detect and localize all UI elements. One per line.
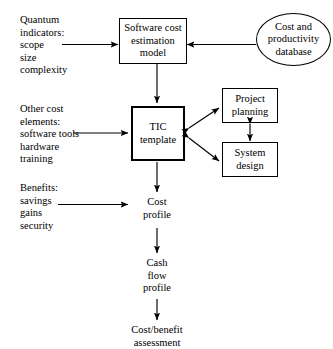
node-label-cost-and-productivity-database: Cost and productivity database <box>256 13 331 66</box>
node-label-software-cost-estimation-model: Software cost estimation model <box>119 18 187 64</box>
node-label-system-design: System design <box>222 142 278 177</box>
input-label-quantum-indicators: Quantum indicators: scope size complexit… <box>20 14 67 77</box>
input-label-benefits: Benefits: savings gains security <box>20 182 58 232</box>
output-label-cost-benefit-assessment: Cost/benefit assessment <box>107 324 207 349</box>
arrow-tic-to-system-design <box>189 138 219 161</box>
node-label-tic-template: TIC template <box>131 106 185 161</box>
arrow-tic-to-project-planning <box>189 108 219 128</box>
node-label-project-planning: Project planning <box>222 88 278 123</box>
output-label-cash-flow-profile: Cash flow profile <box>107 257 207 295</box>
input-label-other-cost-elements: Other cost elements: software tools hard… <box>20 103 79 166</box>
output-label-cost-profile: Cost profile <box>107 196 207 221</box>
diagram-canvas: Quantum indicators: scope size complexit… <box>0 0 333 349</box>
